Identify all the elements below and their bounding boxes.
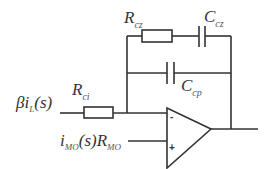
resistor-r-ci	[84, 107, 113, 118]
opamp-minus-sign: -	[170, 111, 173, 122]
label-c-cz: Ccz	[204, 7, 224, 29]
label-noninverting-source: iMO(s)RMO	[60, 131, 122, 152]
label-inverting-source: βiL(s)	[15, 93, 52, 114]
resistor-r-cz	[142, 30, 172, 42]
label-r-cz: Rcz	[123, 8, 143, 30]
circuit-diagram: - + Rcz Ccz Ccp Rci βiL(s) iMO(s)RMO	[0, 0, 269, 169]
label-c-cp: Ccp	[181, 76, 202, 98]
opamp-triangle	[167, 108, 211, 168]
label-r-ci: Rci	[71, 80, 90, 102]
opamp-plus-sign: +	[169, 142, 175, 153]
